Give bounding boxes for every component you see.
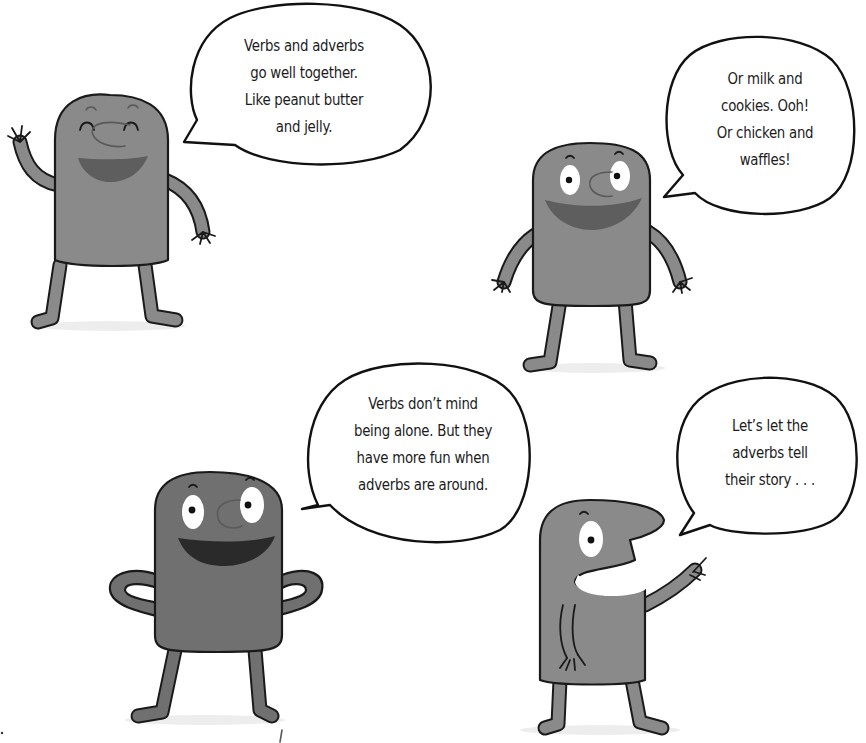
speech-line: being alone. But they	[333, 418, 514, 445]
speech-line: waffles!	[692, 147, 838, 174]
speech-line: have more fun when	[333, 445, 514, 472]
speech-line: Verbs and adverbs	[218, 33, 390, 60]
pointing-character	[520, 500, 706, 735]
speech-line: their story . . .	[701, 467, 839, 494]
hands-on-hips-character	[110, 472, 323, 725]
waving-character	[8, 94, 215, 331]
speech-line: adverbs tell	[701, 440, 839, 467]
speech-line: Let’s let the	[701, 413, 839, 440]
stray-mark	[280, 730, 282, 742]
speech-line: and jelly.	[218, 114, 390, 141]
speech-line: Verbs don’t mind	[333, 391, 514, 418]
speech-line: Or chicken and	[692, 120, 838, 147]
speech-line: go well together.	[218, 60, 390, 87]
speech-line: cookies. Ooh!	[692, 93, 838, 120]
smiling-character	[492, 143, 692, 373]
speech-text-top-right: Or milk and cookies. Ooh! Or chicken and…	[692, 66, 838, 174]
speech-line: Like peanut butter	[218, 87, 390, 114]
speech-text-bottom-right: Let’s let the adverbs tell their story .…	[701, 413, 839, 494]
speech-line: adverbs are around.	[333, 472, 514, 499]
speech-text-bottom-left: Verbs don’t mind being alone. But they h…	[333, 391, 514, 499]
stray-dot	[1, 732, 3, 734]
speech-text-top-left: Verbs and adverbs go well together. Like…	[218, 33, 390, 141]
speech-line: Or milk and	[692, 66, 838, 93]
